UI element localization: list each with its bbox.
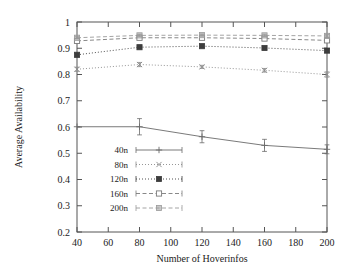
legend-label-200n: 200n bbox=[110, 203, 129, 213]
legend-label-40n: 40n bbox=[115, 145, 129, 155]
marker-shaded-square bbox=[262, 33, 267, 38]
x-tick-label: 120 bbox=[195, 237, 210, 248]
series-120n bbox=[74, 44, 329, 58]
x-axis-title: Number of Hoverinfos bbox=[156, 253, 247, 264]
y-tick-label: 0.7 bbox=[58, 95, 71, 106]
marker-open-square bbox=[156, 191, 161, 196]
y-tick-label: 1 bbox=[65, 17, 70, 28]
marker-shaded-square bbox=[324, 33, 329, 38]
x-tick-label: 140 bbox=[226, 237, 241, 248]
y-axis-title: Average Availability bbox=[13, 86, 24, 168]
marker-filled-square bbox=[199, 44, 204, 49]
y-tick-label: 0.5 bbox=[58, 148, 71, 159]
y-tick-label: 0.9 bbox=[58, 43, 71, 54]
marker-filled-square bbox=[324, 48, 329, 53]
y-tick-label: 0.2 bbox=[58, 227, 71, 238]
legend-item-160n: 160n bbox=[110, 189, 182, 199]
series-80n bbox=[74, 62, 329, 77]
marker-shaded-square bbox=[137, 33, 142, 38]
availability-line-chart: 4060801001201401601802000.20.30.40.50.60… bbox=[0, 0, 341, 271]
marker-shaded-square bbox=[199, 33, 204, 38]
y-tick-label: 0.8 bbox=[58, 69, 71, 80]
legend-label-120n: 120n bbox=[110, 174, 129, 184]
x-tick-label: 160 bbox=[257, 237, 272, 248]
legend-item-40n: 40n bbox=[115, 145, 183, 155]
y-tick-label: 0.4 bbox=[58, 174, 71, 185]
y-tick-label: 0.6 bbox=[58, 122, 71, 133]
marker-filled-square bbox=[137, 45, 142, 50]
legend-item-200n: 200n bbox=[110, 203, 182, 213]
x-tick-label: 40 bbox=[72, 237, 82, 248]
x-tick-label: 80 bbox=[135, 237, 145, 248]
x-tick-label: 100 bbox=[163, 237, 178, 248]
legend-item-120n: 120n bbox=[110, 174, 182, 184]
chart-figure: 4060801001201401601802000.20.30.40.50.60… bbox=[0, 0, 341, 271]
x-tick-label: 180 bbox=[288, 237, 303, 248]
legend-label-80n: 80n bbox=[115, 160, 129, 170]
marker-filled-square bbox=[74, 52, 79, 57]
marker-shaded-square bbox=[74, 35, 79, 40]
y-tick-label: 0.3 bbox=[58, 200, 71, 211]
legend-label-160n: 160n bbox=[110, 189, 129, 199]
legend-item-80n: 80n bbox=[115, 160, 183, 170]
marker-shaded-square bbox=[156, 205, 161, 210]
marker-filled-square bbox=[156, 176, 161, 181]
series-40n bbox=[74, 119, 330, 154]
x-tick-label: 60 bbox=[103, 237, 113, 248]
x-tick-label: 200 bbox=[320, 237, 335, 248]
marker-filled-square bbox=[262, 45, 267, 50]
